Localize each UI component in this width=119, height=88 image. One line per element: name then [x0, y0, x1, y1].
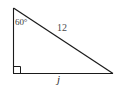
hypotenuse-length-label: 12 [57, 23, 67, 33]
triangle-hypotenuse [14, 8, 114, 74]
base-length-label: j [57, 74, 60, 85]
triangle-figure: 60° 12 j [0, 0, 119, 88]
right-angle-marker-icon [14, 67, 21, 74]
angle-label: 60° [15, 18, 27, 27]
